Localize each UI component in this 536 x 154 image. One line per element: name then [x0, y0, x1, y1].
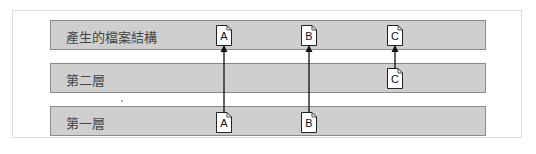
file-label-a-layer1: A [216, 117, 232, 129]
file-label-b-layer1: B [301, 117, 317, 129]
file-label-b-result: B [301, 30, 317, 42]
file-label-a-result: A [216, 30, 232, 42]
file-label-c-layer2: C [387, 73, 403, 85]
files-layer [0, 0, 536, 154]
file-label-c-result: C [387, 30, 403, 42]
